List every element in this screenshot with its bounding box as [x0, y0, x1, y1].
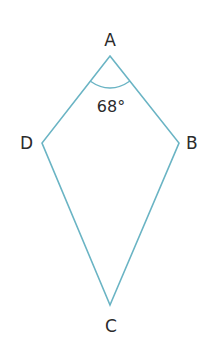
vertex-label-d: D [20, 133, 33, 153]
vertex-label-b: B [186, 133, 198, 153]
kite-diagram: A B C D 68° [0, 0, 221, 349]
angle-arc-a [90, 81, 130, 88]
kite-shape [42, 56, 179, 305]
vertex-label-a: A [104, 30, 116, 50]
vertex-label-c: C [105, 316, 117, 336]
angle-label-a: 68° [97, 97, 125, 116]
